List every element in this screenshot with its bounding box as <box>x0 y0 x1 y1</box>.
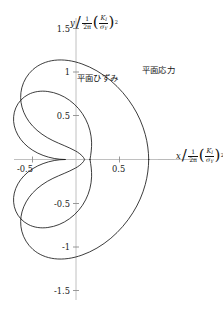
y-axis-title-ratio: KI σY <box>99 15 109 31</box>
plastic-zone-figure: 1.5 1 0.5 -0.5 -1 -1.5 -0.5 0.5 y / 1 2π… <box>0 0 223 314</box>
x-axis-title-ratio: KI σY <box>205 148 215 164</box>
y-tick-label--1.5: -1.5 <box>54 286 70 296</box>
y-tick-label-0.5: 0.5 <box>57 111 70 121</box>
y-axis-title-divider: / <box>75 15 81 30</box>
y-axis-title: y / 1 2π ( KI σY ) 2 <box>70 15 118 31</box>
x-axis-title: x / 1 2π ( KI σY ) 2 <box>176 148 223 164</box>
x-tick-label-0.5: 0.5 <box>112 164 125 174</box>
x-axis-title-paren-close: ) <box>215 148 221 163</box>
y-axis-title-ratio-num: KI <box>99 15 108 23</box>
x-axis-title-fraction: 1 2π <box>187 149 198 163</box>
y-axis-title-exponent: 2 <box>114 20 118 25</box>
y-axis-title-paren-open: ( <box>93 15 99 30</box>
annotation-plane-strain: 平面ひずみ <box>77 71 118 83</box>
y-axis-title-fraction: 1 2π <box>81 16 92 30</box>
x-axis-title-divider: / <box>181 148 187 163</box>
y-tick-label--0.5: -0.5 <box>54 199 70 209</box>
x-axis-title-frac-den: 2π <box>188 156 198 163</box>
y-axis-title-ratio-den: σY <box>99 23 108 32</box>
x-tick-label--0.5: -0.5 <box>17 164 33 174</box>
y-axis-title-frac-den: 2π <box>82 23 92 30</box>
x-axis-title-ratio-num: KI <box>205 148 214 156</box>
y-tick-label--1: -1 <box>62 242 70 252</box>
x-axis-title-paren-open: ( <box>199 148 205 163</box>
y-tick-label-1.5: 1.5 <box>57 24 70 34</box>
annotation-plane-stress: 平面応力 <box>142 63 175 75</box>
x-axis-title-ratio-den: σY <box>205 156 214 165</box>
y-tick-label-1: 1 <box>65 67 70 77</box>
x-axis-title-exponent: 2 <box>220 153 223 158</box>
y-axis-title-paren-close: ) <box>109 15 115 30</box>
